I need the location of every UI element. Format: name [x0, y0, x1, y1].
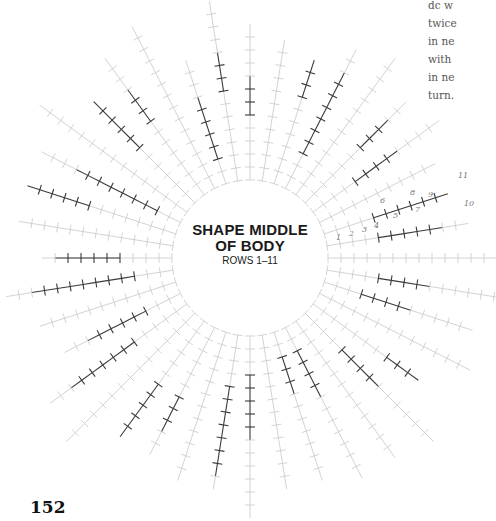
handwritten-row-number: 2 [348, 229, 354, 238]
side-text-line: in ne [428, 68, 496, 86]
stitch-ray [210, 334, 242, 489]
stitch-ray [150, 325, 219, 455]
stitch-ray [328, 253, 496, 263]
stitch-ray [40, 277, 178, 327]
handwritten-row-number: 1 [336, 233, 341, 242]
handwritten-row-number: 8 [410, 188, 415, 197]
stitch-ray [310, 120, 439, 216]
stitch-ray [326, 221, 468, 251]
stitch-ray [323, 277, 473, 331]
stitch-ray [281, 325, 362, 478]
stitch-ray [326, 265, 496, 301]
diagram-subtitle: ROWS 1–11 [180, 254, 320, 267]
handwritten-row-number: 11 [458, 171, 468, 180]
stitch-ray [177, 331, 231, 481]
stitch-ray [302, 310, 434, 442]
stitch-ray [42, 253, 172, 263]
handwritten-row-number: 9 [428, 190, 433, 199]
side-text-line: with [428, 50, 496, 68]
handwritten-row-number: 5 [393, 211, 398, 220]
stitch-ray [185, 60, 231, 185]
stitch-ray [27, 185, 177, 239]
handwritten-row-number: 6 [380, 196, 385, 205]
handwritten-row-number: 7 [415, 205, 421, 214]
diagram-title-line1: SHAPE MIDDLE [180, 222, 320, 238]
stitch-ray [269, 331, 323, 481]
stitch-ray [257, 334, 289, 489]
page-number: 152 [30, 497, 66, 517]
side-text-line: in ne [428, 32, 496, 50]
stitch-ray [245, 24, 255, 180]
stitch-ray [19, 218, 174, 250]
stitch-ray [323, 193, 448, 239]
stitch-ray [269, 60, 315, 185]
handwritten-row-number: 3 [362, 225, 367, 234]
handwritten-row-number: 10 [464, 199, 474, 208]
side-text-line: turn. [428, 86, 496, 104]
diagram-title-line2: OF BODY [180, 238, 320, 254]
side-text-line: dc w [428, 0, 496, 14]
stitch-ray [66, 310, 198, 442]
stitch-ray [206, 1, 242, 182]
stitch-ray [6, 265, 174, 299]
center-label: SHAPE MIDDLE OF BODY ROWS 1–11 [180, 222, 320, 267]
handwritten-row-number: 4 [373, 221, 379, 230]
stitch-ray [257, 40, 287, 182]
stitch-ray [317, 289, 470, 370]
stitch-ray [40, 105, 190, 216]
side-text-line: twice [428, 14, 496, 32]
side-instructions-text: dc w twice in ne with in ne turn. [428, 0, 496, 104]
stitch-ray [245, 336, 255, 518]
stitch-ray [310, 300, 418, 380]
